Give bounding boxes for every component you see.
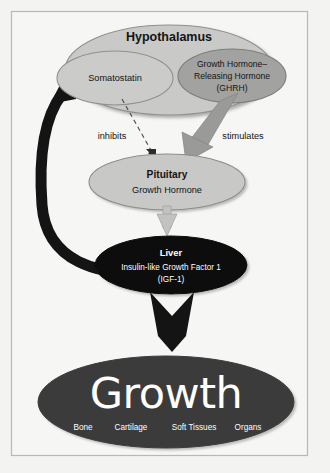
node-liver[interactable]: Liver Insulin-like Growth Factor 1 (IGF-… (95, 236, 247, 294)
somatostatin-label: Somatostatin (88, 73, 142, 83)
ghrh-label-line3: (GHRH) (216, 83, 247, 93)
node-ghrh[interactable]: Growth Hormone– Releasing Hormone (GHRH) (178, 49, 286, 103)
pituitary-title: Pituitary (147, 169, 188, 180)
ghrh-label-line2: Releasing Hormone (194, 71, 270, 81)
hypothalamus-label: Hypothalamus (126, 30, 212, 44)
node-growth[interactable]: Growth Bone Cartilage Soft Tissues Organ… (38, 356, 294, 448)
growth-tissue-soft-tissues: Soft Tissues (172, 423, 217, 432)
node-somatostatin[interactable]: Somatostatin (57, 51, 173, 105)
growth-title: Growth (90, 368, 243, 418)
pituitary-ellipse (89, 154, 245, 210)
diagram-canvas: Hypothalamus Somatostatin Growth Hormone… (0, 0, 330, 473)
pituitary-subtitle: Growth Hormone (132, 185, 202, 195)
growth-tissue-cartilage: Cartilage (115, 423, 148, 432)
growth-hormone-axis-diagram: Hypothalamus Somatostatin Growth Hormone… (0, 0, 330, 473)
liver-line1: Insulin-like Growth Factor 1 (121, 263, 221, 272)
arrow-stimulates-label: stimulates (222, 131, 264, 141)
liver-line2: (IGF-1) (158, 275, 185, 284)
node-pituitary[interactable]: Pituitary Growth Hormone (89, 154, 245, 210)
arrow-inhibits-label: inhibits (98, 131, 127, 141)
growth-tissue-organs: Organs (235, 423, 262, 432)
growth-tissue-bone: Bone (73, 423, 93, 432)
liver-title: Liver (160, 247, 183, 258)
ghrh-label-line1: Growth Hormone– (197, 59, 267, 69)
